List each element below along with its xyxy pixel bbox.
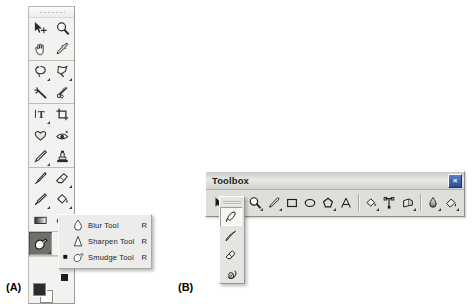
flyout-item-label: Sharpen Tool xyxy=(86,237,137,246)
flyout-triangle-icon xyxy=(438,208,441,211)
magic-wand-icon xyxy=(33,85,48,100)
clone-stamp-tool-button[interactable] xyxy=(51,146,73,167)
flyout-triangle-icon xyxy=(47,78,50,81)
flyout-menu-item-sharpen[interactable]: Sharpen Tool R xyxy=(59,233,151,249)
flyout-triangle-icon xyxy=(413,208,416,211)
pen-tool-flyout[interactable] xyxy=(219,196,245,284)
freehand-tool-button[interactable] xyxy=(264,193,282,212)
lasso-icon xyxy=(33,64,48,79)
eraser-tool-button[interactable] xyxy=(220,245,242,264)
flyout-triangle-icon xyxy=(47,163,50,166)
calligraphy-tool-button[interactable] xyxy=(220,226,242,245)
perspective-tool-button[interactable] xyxy=(399,193,417,212)
airbrush-icon xyxy=(33,192,48,207)
flyout-triangle-icon xyxy=(456,208,459,211)
gradient-tool-button[interactable] xyxy=(29,210,51,231)
tool-group-navigation xyxy=(29,18,74,61)
gradient-icon xyxy=(33,213,48,228)
spiral-tool-button[interactable] xyxy=(220,264,242,283)
svg-text:T: T xyxy=(37,109,44,120)
quick-mask-indicator[interactable] xyxy=(61,274,68,281)
pen-nib-icon xyxy=(224,210,238,224)
eraser-icon xyxy=(55,171,70,186)
ellipse-tool-button[interactable] xyxy=(301,193,319,212)
eraser-tool-button[interactable] xyxy=(51,168,73,189)
flyout-triangle-icon xyxy=(48,251,51,254)
node-tool-button[interactable] xyxy=(380,193,398,212)
figure-label-a: (A) xyxy=(6,281,21,293)
drag-grip[interactable] xyxy=(29,7,74,18)
gradient-tool-button[interactable] xyxy=(424,193,442,212)
toolbar-separator xyxy=(420,194,421,211)
flyout-grip[interactable] xyxy=(223,201,241,205)
airbrush-tool-button[interactable] xyxy=(29,189,51,210)
flyout-triangle-icon xyxy=(69,206,72,209)
polygon-lasso-icon xyxy=(55,64,70,79)
move-arrow-icon xyxy=(33,21,48,36)
figure-label-b: (B) xyxy=(178,281,193,293)
rectangle-tool-button[interactable] xyxy=(283,193,301,212)
flyout-triangle-icon xyxy=(47,121,50,124)
flyout-triangle-icon xyxy=(69,78,72,81)
node-edit-icon xyxy=(382,196,396,210)
tool-group-edit: T xyxy=(29,104,74,168)
red-eye-tool-button[interactable] xyxy=(51,125,73,146)
fill-tool-button[interactable] xyxy=(362,193,380,212)
toolbar-separator xyxy=(358,194,359,211)
magic-wand-tool-button[interactable] xyxy=(29,82,51,103)
scissors-tool-button[interactable] xyxy=(51,82,73,103)
lasso-tool-button[interactable] xyxy=(29,61,51,82)
toolbox-title-text: Toolbox xyxy=(212,175,448,186)
flyout-item-shortcut: R xyxy=(137,221,147,230)
paint-bucket-icon xyxy=(55,192,70,207)
pen-nib-tool-button-selected[interactable] xyxy=(220,207,242,226)
eyedropper-icon xyxy=(55,42,70,57)
flyout-item-shortcut: R xyxy=(137,253,147,262)
flyout-menu-item-blur[interactable]: Blur Tool R xyxy=(59,217,151,233)
free-select-tool-button[interactable] xyxy=(51,61,73,82)
eyedropper-tool-button[interactable] xyxy=(51,39,73,60)
crop-tool-button[interactable] xyxy=(51,104,73,125)
paintbrush-tool-button[interactable] xyxy=(29,168,51,189)
water-drop-icon xyxy=(70,219,86,232)
move-tool-button[interactable] xyxy=(29,18,51,39)
flyout-item-label: Blur Tool xyxy=(86,221,137,230)
pencil-tool-button[interactable] xyxy=(29,146,51,167)
toolbox-window[interactable]: Toolbox × xyxy=(205,171,465,217)
crop-icon xyxy=(55,107,70,122)
hand-tool-button[interactable] xyxy=(29,39,51,60)
toolbox-title-bar[interactable]: Toolbox × xyxy=(206,172,464,190)
foreground-color-swatch[interactable] xyxy=(33,283,46,296)
paintbrush-icon xyxy=(33,171,48,186)
blur-tool-flyout-menu[interactable]: Blur Tool R Sharpen Tool R ■ Smudge Tool… xyxy=(58,214,152,269)
shape-tool-button[interactable] xyxy=(29,125,51,146)
flyout-item-shortcut: R xyxy=(137,237,147,246)
eraser-icon xyxy=(224,248,238,262)
sharpen-triangle-icon xyxy=(70,235,86,248)
flyout-triangle-icon xyxy=(260,208,263,211)
rectangle-icon xyxy=(285,196,299,210)
text-tool-button[interactable]: T xyxy=(29,104,51,125)
calligraphy-pen-icon xyxy=(224,229,238,243)
zoom-tool-button[interactable] xyxy=(246,193,264,212)
smudge-finger-icon xyxy=(33,236,49,252)
zoom-tool-button[interactable] xyxy=(51,18,73,39)
polygon-tool-button[interactable] xyxy=(319,193,337,212)
flyout-triangle-icon xyxy=(333,208,336,211)
close-icon[interactable]: × xyxy=(448,174,462,188)
paint-bucket-tool-button[interactable] xyxy=(51,189,73,210)
tool-group-selection xyxy=(29,61,74,104)
grip-dots-icon xyxy=(39,11,65,14)
smudge-finger-icon xyxy=(70,251,86,264)
text-tool-button[interactable] xyxy=(337,193,355,212)
flyout-triangle-icon xyxy=(69,185,72,188)
smudge-tool-button-selected[interactable] xyxy=(29,232,52,255)
text-t-icon: T xyxy=(33,107,48,122)
flyout-triangle-icon xyxy=(47,206,50,209)
color-fill-tool-button[interactable] xyxy=(442,193,460,212)
ellipse-icon xyxy=(303,196,317,210)
flyout-menu-item-smudge[interactable]: ■ Smudge Tool R xyxy=(59,249,151,265)
checkmark-icon: ■ xyxy=(61,253,70,261)
pencil-icon xyxy=(33,149,48,164)
red-eye-icon xyxy=(55,128,70,143)
